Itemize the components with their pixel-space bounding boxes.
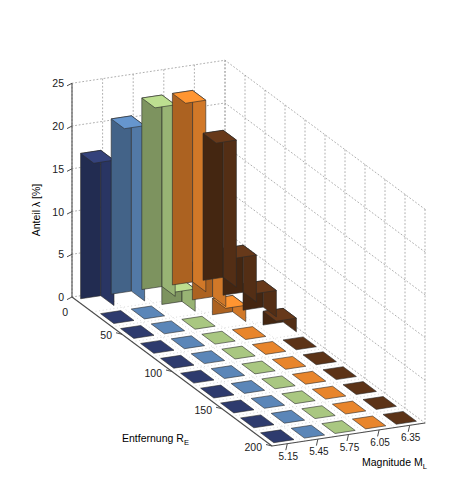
- bar: [172, 90, 205, 291]
- z-tick-label: 25: [52, 77, 64, 89]
- y-axis-title: Magnitude ML: [362, 452, 427, 470]
- x-origin-label: 0: [62, 306, 68, 318]
- z-tick-label: 0: [58, 291, 64, 303]
- x-axis-title: Entfernung RE: [122, 428, 189, 446]
- x-tick-label: 100: [144, 367, 162, 379]
- bar: [111, 116, 144, 301]
- z-tick-label: 15: [52, 163, 64, 175]
- z-tick-label: 5: [58, 248, 64, 260]
- y-tick-label: 6.05: [370, 437, 390, 448]
- x-tick-label: 50: [100, 329, 112, 341]
- z-tick-label: 20: [52, 120, 64, 132]
- y-tick-label: 5.15: [279, 451, 299, 462]
- chart-canvas: 0510152025 050100150200 5.155.455.756.05…: [0, 0, 476, 492]
- three-d-bar-chart: 0510152025 050100150200 5.155.455.756.05…: [0, 0, 476, 492]
- y-tick-label: 5.75: [340, 442, 360, 453]
- x-tick-label: 150: [194, 404, 212, 416]
- y-axis-title-subscript: L: [423, 462, 427, 471]
- y-tick-label: 5.45: [309, 446, 329, 457]
- bar: [81, 150, 114, 305]
- bar: [203, 130, 236, 287]
- z-axis-title: Anteil λ [%]: [0, 200, 96, 220]
- x-tick-label: 200: [244, 441, 262, 453]
- y-tick-label: 6.35: [401, 432, 421, 443]
- x-axis-title-subscript: E: [184, 438, 189, 447]
- x-axis-title-text: Entfernung R: [122, 432, 184, 444]
- y-axis-title-text: Magnitude M: [362, 456, 423, 468]
- z-axis-title-text: Anteil λ [%]: [30, 184, 42, 237]
- bar: [142, 95, 175, 296]
